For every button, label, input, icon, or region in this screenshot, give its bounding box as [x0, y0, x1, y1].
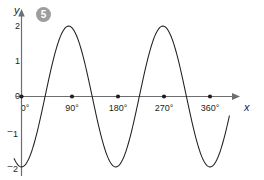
- y-axis: [18, 9, 25, 176]
- plot-area: [0, 0, 264, 180]
- trig-graph-figure: 5 y x 2 1 0 –1 –2 0° 90° 180° 270° 360°: [0, 0, 264, 180]
- x-axis: [16, 93, 240, 100]
